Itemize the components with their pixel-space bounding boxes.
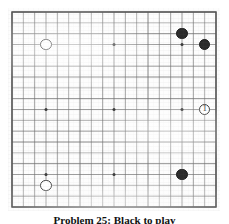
star-point [181,43,184,46]
stone-white[interactable] [40,39,51,50]
go-board-figure: 1 Problem 25: Black to play [0,0,229,224]
board-grid [8,8,220,211]
star-point [113,173,116,176]
star-point [45,108,48,111]
figure-caption-text: Problem 25: Black to play [0,215,229,224]
go-board[interactable]: 1 [8,8,220,211]
stone-black[interactable] [176,169,187,180]
star-point [181,108,184,111]
stone-black[interactable] [176,28,187,39]
stone-white-numbered[interactable]: 1 [199,104,210,115]
stone-move-number: 1 [200,105,209,114]
star-point [45,173,48,176]
star-point [113,43,116,46]
star-point [113,108,116,111]
figure-caption: Problem 25: Black to play [0,214,229,224]
stone-white[interactable] [40,180,51,191]
